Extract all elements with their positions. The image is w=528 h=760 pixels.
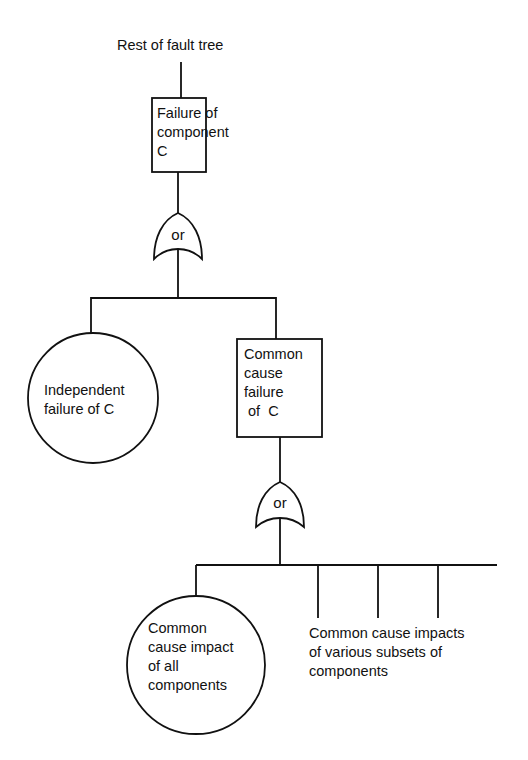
node-line: components bbox=[309, 662, 465, 681]
node-line: failure bbox=[244, 383, 303, 402]
or-gate-1-label: or bbox=[158, 226, 198, 243]
node-line: of C bbox=[244, 402, 303, 421]
node-line: cause bbox=[244, 364, 303, 383]
node-line: component bbox=[157, 123, 229, 142]
node-line: C bbox=[157, 142, 229, 161]
node-line: of all bbox=[148, 657, 233, 676]
node-line: Common bbox=[148, 619, 233, 638]
node-line: components bbox=[148, 676, 233, 695]
top-label: Rest of fault tree bbox=[117, 36, 223, 55]
node-line: Failure of bbox=[157, 104, 229, 123]
node-line: Independent bbox=[44, 381, 125, 400]
node-line: failure of C bbox=[44, 400, 125, 419]
or-gate-2-label: or bbox=[260, 494, 300, 511]
node-line: Common cause impacts bbox=[309, 624, 465, 643]
node-line: of various subsets of bbox=[309, 643, 465, 662]
bus-1 bbox=[91, 298, 276, 339]
subsets-text: Common cause impacts of various subsets … bbox=[309, 624, 465, 681]
failure-component-c-text: Failure of component C bbox=[157, 104, 229, 161]
common-cause-failure-c-text: Common cause failure of C bbox=[244, 345, 303, 421]
independent-failure-c-text: Independent failure of C bbox=[44, 381, 125, 419]
node-line: Common bbox=[244, 345, 303, 364]
common-cause-impact-all-text: Common cause impact of all components bbox=[148, 619, 233, 695]
node-line: cause impact bbox=[148, 638, 233, 657]
